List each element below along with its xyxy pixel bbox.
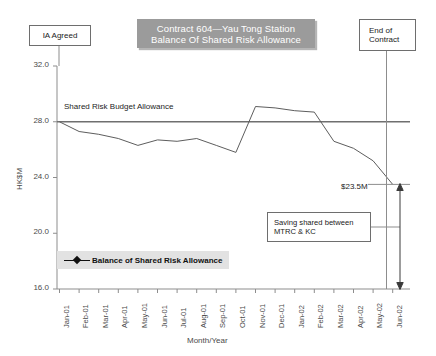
x-tick-label: Sep-01 <box>219 304 227 328</box>
y-tick-label: 28.0 <box>23 117 49 126</box>
chart-title-line-2: Balance Of Shared Risk Allowance <box>151 34 301 45</box>
chart-legend: Balance of Shared Risk Allowance <box>57 251 229 269</box>
x-tick-label: Mar-01 <box>102 304 110 328</box>
y-tick-label: 16.0 <box>23 284 49 293</box>
x-tick-label: Jan-01 <box>63 305 71 328</box>
y-tick-label: 24.0 <box>23 173 49 182</box>
x-tick-label: Jan-02 <box>298 305 306 328</box>
x-axis-title: Month/Year <box>187 337 228 346</box>
legend-label: Balance of Shared Risk Allowance <box>92 256 222 265</box>
balance-series-line <box>60 107 393 185</box>
callout-ia-agreed: IA Agreed <box>29 25 91 46</box>
x-tick-label: Mar-02 <box>337 304 345 328</box>
savings-range-arrow <box>397 184 403 290</box>
y-tick-label: 20.0 <box>23 228 49 237</box>
x-tick-label: Nov-01 <box>259 304 267 328</box>
callout-ia-agreed-label: IA Agreed <box>43 31 78 40</box>
x-tick-label: Jun-02 <box>396 305 404 328</box>
callout-end-of-contract-line-1: End of <box>360 26 415 35</box>
callout-saving-shared: Saving shared between MTRC & KC <box>267 212 371 242</box>
x-tick-label: Aug-01 <box>200 304 208 328</box>
y-tick-label: 32.0 <box>23 61 49 70</box>
chart-title-line-1: Contract 604—Yau Tong Station <box>157 23 295 34</box>
x-tick-label: Apr-02 <box>357 305 365 328</box>
callout-saving-line-1: Saving shared between <box>274 218 353 227</box>
callout-end-of-contract: End of Contract <box>359 19 416 51</box>
x-tick-label: May-02 <box>376 303 384 328</box>
budget-allowance-label: Shared Risk Budget Allowance <box>64 103 173 112</box>
end-value-label: $23.5M <box>341 183 368 192</box>
x-tick-label: Jun-01 <box>161 305 169 328</box>
chart-container: Contract 604—Yau Tong Station Balance Of… <box>0 0 436 356</box>
callout-saving-line-2: MTRC & KC <box>274 227 316 236</box>
chart-title-banner: Contract 604—Yau Tong Station Balance Of… <box>137 19 315 48</box>
x-tick-label: Oct-01 <box>239 305 247 328</box>
x-tick-label: May-01 <box>141 303 149 328</box>
legend-line-marker-icon <box>64 256 90 265</box>
x-tick-label: Dec-01 <box>278 304 286 328</box>
chart-plot-svg <box>0 0 436 356</box>
x-tick-label: Jul-01 <box>180 308 188 328</box>
x-tick-label: Feb-01 <box>82 304 90 328</box>
callout-end-of-contract-line-2: Contract <box>360 35 415 44</box>
x-tick-label: Feb-02 <box>317 304 325 328</box>
x-axis-ticks <box>60 289 393 293</box>
x-tick-label: Apr-01 <box>121 305 129 328</box>
